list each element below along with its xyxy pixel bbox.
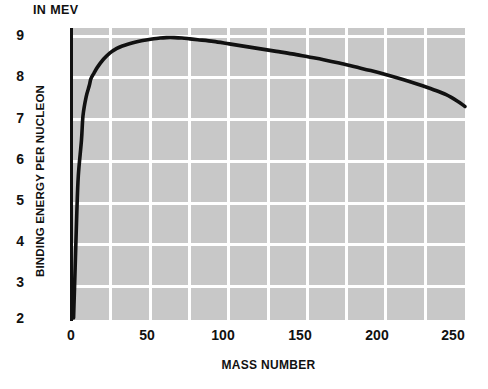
x-axis-label: MASS NUMBER <box>72 358 465 372</box>
y-tick-label-3: 3 <box>0 274 24 290</box>
x-tick-label-150: 150 <box>270 327 330 343</box>
y-tick-label-6: 6 <box>0 151 24 167</box>
x-tick-label-250: 250 <box>423 327 483 343</box>
y-tick-label-8: 8 <box>0 68 24 84</box>
y-axis-line <box>70 28 73 321</box>
y-tick-label-7: 7 <box>0 110 24 126</box>
x-tick-label-0: 0 <box>41 327 101 343</box>
y-tick-label-5: 5 <box>0 192 24 208</box>
unit-label: IN MEV <box>33 3 78 17</box>
y-tick-label-2: 2 <box>0 310 24 326</box>
y-tick-label-9: 9 <box>0 27 24 43</box>
x-tick-label-100: 100 <box>193 327 253 343</box>
binding-energy-chart: IN MEV BINDING ENERGY PER NUCLEON 9 8 7 … <box>0 0 488 389</box>
y-axis-label: BINDING ENERGY PER NUCLEON <box>34 71 46 291</box>
y-tick-label-4: 4 <box>0 233 24 249</box>
plot-area <box>72 28 465 320</box>
x-tick-label-50: 50 <box>117 327 177 343</box>
binding-energy-curve <box>72 28 465 320</box>
x-tick-label-200: 200 <box>347 327 407 343</box>
